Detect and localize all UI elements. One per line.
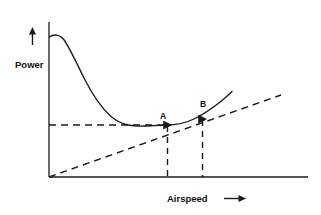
right-arrow-icon — [224, 195, 246, 202]
power-curve-figure: A B Power Airspeed — [0, 0, 321, 215]
power-vs-airspeed-chart: A B Power Airspeed — [0, 0, 321, 215]
point-b-label: B — [200, 99, 206, 109]
power-required-curve — [50, 35, 233, 126]
up-arrow-icon — [29, 27, 36, 45]
y-axis-label: Power — [15, 59, 44, 70]
tangent-from-origin-line — [49, 95, 281, 177]
x-axis-label: Airspeed — [167, 193, 208, 204]
point-a-label: A — [160, 111, 166, 121]
